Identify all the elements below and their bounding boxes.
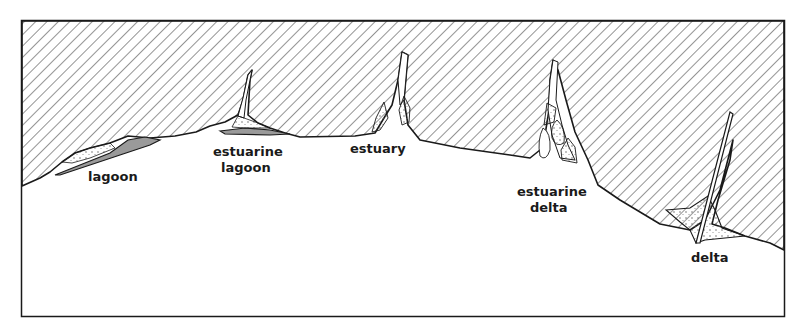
label-estuary: estuary [350, 141, 406, 156]
label-lagoon: lagoon [88, 169, 138, 184]
label-estuarine-lagoon-line2: lagoon [221, 160, 271, 175]
label-estuarine-delta-line1: estuarine [517, 184, 587, 199]
label-estuarine-lagoon-line1: estuarine [213, 144, 283, 159]
label-delta: delta [691, 250, 729, 265]
label-estuarine-delta-line2: delta [530, 200, 568, 215]
coastal-landforms-diagram: lagoon estuarine lagoon estuary estuarin… [0, 0, 809, 334]
